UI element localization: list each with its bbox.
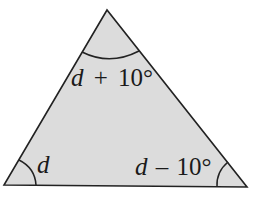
top-angle-value: 10°	[118, 64, 153, 91]
triangle-diagram: d + 10° d d – 10°	[0, 0, 261, 205]
bottom-right-angle-variable: d	[135, 153, 148, 180]
top-angle-variable: d	[71, 64, 84, 91]
bottom-right-angle-label: d – 10°	[135, 153, 212, 180]
bottom-right-angle-value: 10°	[177, 153, 212, 180]
top-angle-operator: +	[94, 64, 108, 91]
bottom-left-angle-label: d	[37, 151, 50, 178]
top-angle-label: d + 10°	[71, 64, 153, 91]
bottom-right-angle-operator: –	[155, 153, 169, 180]
